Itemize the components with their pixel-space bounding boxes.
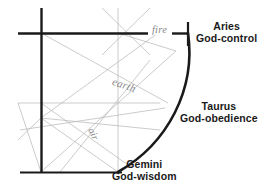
zodiac-virtue-aries: God-control [196,32,257,44]
gray-diagonal-mid-left-to-gemini [41,103,128,165]
zodiac-sign-gemini: Gemini [112,158,177,170]
gray-fan-hub-to-bottom [41,118,118,172]
zodiac-label-taurus: Taurus God-obedience [180,100,258,124]
gray-diagonal-tl-to-br [41,33,168,103]
zodiac-virtue-gemini: God-wisdom [112,170,177,182]
element-label-fire: fire [150,24,169,35]
quadrant-arc [118,33,189,172]
gray-fan-hub-to-upper-right [41,33,158,118]
gray-diagonal-bottom-to-upper [60,60,150,172]
zodiac-sign-aries: Aries [196,20,257,32]
zodiac-label-aries: Aries God-control [196,20,257,44]
gray-fan-upper-left-edge [18,103,41,172]
zodiac-virtue-taurus: God-obedience [180,112,258,124]
gray-connector-top-chord [118,33,176,51]
zodiac-sign-taurus: Taurus [180,100,258,112]
diagram-canvas: fire earth air Aries God-control Taurus … [0,0,260,190]
zodiac-label-gemini: Gemini God-wisdom [112,158,177,182]
